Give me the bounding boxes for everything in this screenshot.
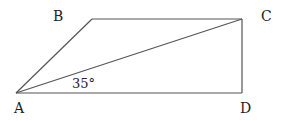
- label-a: A: [13, 100, 25, 116]
- label-d: D: [240, 100, 251, 116]
- label-c: C: [261, 8, 272, 24]
- trapezoid-diagram: B C A D 35°: [0, 0, 303, 121]
- diagonal-ac: [16, 19, 242, 93]
- angle-label: 35°: [72, 76, 95, 91]
- label-b: B: [53, 8, 63, 24]
